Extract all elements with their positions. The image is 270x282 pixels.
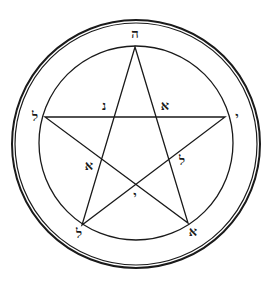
outer-ring-inner-line (15, 23, 257, 265)
label-inner-left-lower: א (85, 158, 93, 173)
label-top: ה (131, 26, 138, 41)
outer-ring-outer-line (12, 20, 260, 268)
label-inner-right-upper: א (161, 98, 169, 113)
inner-circle (39, 46, 233, 240)
label-inner-right-lower: ל (178, 153, 185, 168)
label-center-bottom: י (133, 188, 136, 203)
label-inner-left-upper: נ (102, 98, 106, 113)
pentagram-seal-diagram: ה ל י נ א א ל י ל א (0, 0, 270, 282)
label-bottom-right: א (189, 224, 197, 239)
label-left: ל (31, 109, 38, 124)
outer-double-ring (12, 20, 260, 268)
label-right: י (235, 109, 238, 124)
seal-canvas: ה ל י נ א א ל י ל א (0, 0, 270, 282)
label-bottom-left: ל (75, 226, 82, 241)
